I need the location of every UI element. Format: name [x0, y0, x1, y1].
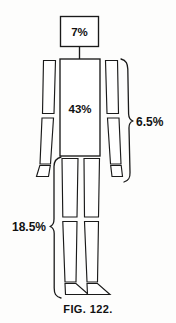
arm-bracket — [121, 59, 133, 182]
right-calf-segment — [85, 222, 99, 283]
figure-container: 7% 43% 6.5% 18.5% FIG. 122. — [0, 0, 176, 323]
head-percent-label: 7% — [71, 26, 88, 38]
leg-percent-label: 18.5% — [12, 220, 46, 234]
right-forearm-segment — [108, 118, 122, 164]
leg-bracket — [50, 157, 61, 298]
right-foot-segment — [87, 284, 110, 295]
body-diagram: 7% 43% 6.5% 18.5% FIG. 122. — [0, 0, 176, 323]
left-foot-segment — [65, 284, 89, 295]
torso-percent-label: 43% — [68, 103, 91, 115]
left-thigh-segment — [62, 159, 78, 218]
figure-caption: FIG. 122. — [63, 303, 112, 315]
right-hand-segment — [111, 166, 123, 177]
left-calf-segment — [63, 222, 77, 283]
left-upper-arm-segment — [43, 61, 56, 114]
left-forearm-segment — [40, 118, 54, 164]
right-upper-arm-segment — [106, 61, 119, 114]
left-hand-segment — [37, 166, 51, 177]
right-thigh-segment — [84, 159, 100, 218]
arm-percent-label: 6.5% — [136, 115, 164, 129]
